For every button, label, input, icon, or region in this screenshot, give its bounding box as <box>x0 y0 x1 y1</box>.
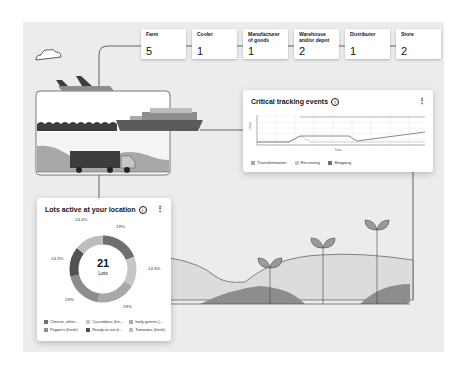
slice-label: 19% <box>116 224 125 229</box>
airplane-icon <box>58 86 114 91</box>
legend-item[interactable]: leafy greens (... <box>129 319 163 324</box>
tracking-legend: Transformation Receiving Shipping <box>251 160 358 165</box>
stage-distributor[interactable]: Distributor 1 <box>345 29 390 59</box>
svg-text:Count: Count <box>249 122 252 130</box>
stage-label: Manufacturer of goods <box>248 32 284 43</box>
stage-count: 5 <box>146 45 152 57</box>
tracking-events-card: Critical tracking eventsi ⋮ Count Date T… <box>243 90 433 172</box>
stage-label: Distributor <box>350 32 376 38</box>
stage-farm[interactable]: Farm 5 <box>141 29 186 59</box>
legend-swatch <box>129 328 133 332</box>
legend-swatch <box>251 161 255 165</box>
legend-swatch <box>295 161 299 165</box>
slice-label: 19% <box>65 297 74 302</box>
legend-swatch <box>86 320 90 324</box>
lots-donut-chart[interactable] <box>67 233 139 305</box>
slice-label: 14.3% <box>148 266 160 271</box>
lots-total-label: Lots <box>67 270 139 276</box>
stage-cooler[interactable]: Cooler 1 <box>192 29 237 59</box>
stage-label: Warehouse and/or depot <box>299 32 335 43</box>
legend-swatch <box>129 320 133 324</box>
stage-store[interactable]: Store 2 <box>396 29 441 59</box>
info-icon[interactable]: i <box>331 98 339 106</box>
overflow-menu-icon[interactable]: ⋮ <box>156 205 164 213</box>
svg-text:Date: Date <box>335 148 342 152</box>
lots-total: 21 <box>67 257 139 269</box>
stage-count: 1 <box>248 45 254 57</box>
legend-swatch <box>44 328 48 332</box>
legend-item[interactable]: Shipping <box>328 160 351 165</box>
stage-label: Farm <box>146 32 158 38</box>
slice-label: 14.3% <box>51 256 63 261</box>
lots-active-card: Lots active at your locationi ⋮ 21 Lots … <box>37 198 171 341</box>
legend-item[interactable]: Cucumbers (fre... <box>86 319 127 324</box>
info-icon[interactable]: i <box>139 206 147 214</box>
overflow-menu-icon[interactable]: ⋮ <box>418 97 426 105</box>
stage-count: 2 <box>401 45 407 57</box>
stage-label: Store <box>401 32 414 38</box>
slice-label: 19% <box>123 304 132 309</box>
card-title: Lots active at your locationi <box>45 206 147 214</box>
legend-item[interactable]: Peppers (fresh) <box>44 327 84 332</box>
legend-swatch <box>86 328 90 332</box>
legend-item[interactable]: Receiving <box>295 160 320 165</box>
legend-item[interactable]: Ready-to-eat d... <box>86 327 127 332</box>
cloud-icon <box>36 49 61 60</box>
legend-item[interactable]: Transformation <box>251 160 286 165</box>
legend-item[interactable]: Tomatoes (fresh) <box>129 327 165 332</box>
card-title: Critical tracking eventsi <box>251 98 339 106</box>
legend-item[interactable]: Cheese, other... <box>44 319 84 324</box>
stage-count: 1 <box>350 45 356 57</box>
stage-warehouse[interactable]: Warehouse and/or depot 2 <box>294 29 339 59</box>
legend-swatch <box>44 320 48 324</box>
stage-label: Cooler <box>197 32 213 38</box>
stage-manufacturer[interactable]: Manufacturer of goods 1 <box>243 29 288 59</box>
lots-legend: Cheese, other... Cucumbers (fre... leafy… <box>44 319 165 332</box>
legend-swatch <box>328 161 332 165</box>
slice-label: 14.3% <box>75 217 87 222</box>
stage-count: 1 <box>197 45 203 57</box>
tracking-line-chart: Count Date <box>249 112 427 152</box>
stage-count: 2 <box>299 45 305 57</box>
